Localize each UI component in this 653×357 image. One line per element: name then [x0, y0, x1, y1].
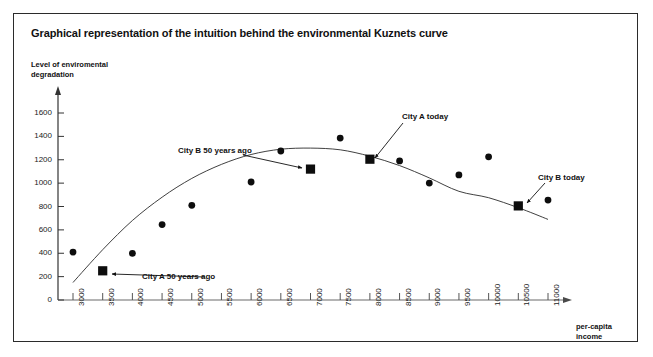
x-tick-label: 7500	[344, 288, 353, 306]
x-tick-label: 8000	[374, 288, 383, 306]
data-point-circle	[337, 135, 344, 142]
data-point-circle	[248, 179, 255, 186]
y-tick-label: 600	[22, 225, 52, 234]
y-tick-label: 200	[22, 272, 52, 281]
x-tick-label: 3000	[77, 288, 86, 306]
data-point-circle	[159, 221, 166, 228]
y-axis-ticks	[58, 113, 64, 300]
data-point-circle	[188, 202, 195, 209]
x-tick-label: 9000	[433, 288, 442, 306]
x-tick-label: 9500	[463, 288, 472, 306]
y-tick-label: 0	[22, 295, 52, 304]
x-tick-label: 11000	[552, 284, 561, 306]
x-tick-label: 10500	[522, 284, 531, 306]
data-point-circle	[277, 148, 284, 155]
data-point-circle	[396, 158, 403, 165]
x-tick-label: 3500	[107, 288, 116, 306]
data-point-square	[365, 155, 374, 164]
data-point-markers	[70, 135, 552, 276]
data-point-circle	[129, 250, 136, 257]
annotation-label-city-b-50-years-ago: City B 50 years ago	[178, 146, 252, 155]
y-tick-label: 1400	[22, 131, 52, 140]
data-point-circle	[485, 153, 492, 160]
data-point-circle	[456, 172, 463, 179]
data-point-circle	[545, 197, 552, 204]
annotation-arrow-city-a-today	[375, 123, 403, 158]
annotation-label-city-b-today: City B today	[538, 173, 585, 182]
x-tick-label: 8500	[404, 288, 413, 306]
annotation-label-city-a-50-years-ago: City A 50 years ago	[142, 272, 215, 281]
data-point-square	[514, 201, 523, 210]
y-tick-label: 1200	[22, 155, 52, 164]
x-tick-label: 6000	[255, 288, 264, 306]
y-tick-label: 400	[22, 248, 52, 257]
annotation-arrows	[112, 123, 545, 277]
annotation-label-city-a-today: City A today	[402, 112, 448, 121]
data-point-circle	[426, 180, 433, 187]
annotation-arrow-city-b-50-years-ago	[243, 155, 302, 168]
data-point-square	[98, 266, 107, 275]
x-tick-label: 5000	[196, 288, 205, 306]
data-point-square	[306, 165, 315, 174]
x-tick-label: 4000	[136, 288, 145, 306]
y-tick-label: 800	[22, 202, 52, 211]
x-tick-label: 6500	[285, 288, 294, 306]
x-tick-label: 7000	[315, 288, 324, 306]
y-tick-label: 1000	[22, 178, 52, 187]
data-point-circle	[70, 249, 77, 256]
annotation-arrow-city-b-today	[527, 183, 545, 203]
y-tick-label: 1600	[22, 108, 52, 117]
axis-lines	[55, 86, 572, 303]
x-tick-label: 10000	[493, 284, 502, 306]
x-tick-label: 4500	[166, 288, 175, 306]
x-tick-label: 5500	[225, 288, 234, 306]
